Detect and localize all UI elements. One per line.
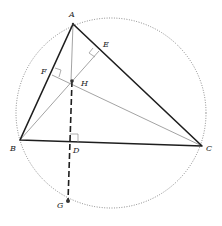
- label-h: H: [80, 79, 89, 88]
- right-angle-mark-e: [89, 48, 95, 57]
- point-g: [66, 199, 70, 203]
- altitude-be: [20, 51, 99, 140]
- right-angle-mark-f: [55, 68, 61, 77]
- point-a: [72, 23, 74, 25]
- altitude-cf: [52, 75, 202, 146]
- right-angle-mark-d: [70, 134, 78, 142]
- label-g: G: [57, 201, 64, 210]
- geometry-diagram: A B C D E F H G: [0, 0, 222, 226]
- triangle-abc: [20, 24, 202, 146]
- altitude-ad: [71, 24, 73, 81]
- label-e: E: [102, 40, 109, 49]
- label-b: B: [9, 144, 16, 153]
- label-c: C: [206, 144, 212, 153]
- point-h: [70, 79, 74, 83]
- label-a: A: [68, 10, 75, 19]
- label-d: D: [72, 146, 80, 155]
- label-f: F: [40, 67, 47, 76]
